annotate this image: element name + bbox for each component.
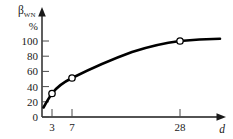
y-axis-title: βWN [18,4,36,19]
line-chart: 0 20 40 60 80 100 % βWN 3 7 28 d [0,0,233,139]
y-tick-label-100: 100 [22,35,39,47]
y-axis-arrow-icon [38,7,46,17]
y-tick-label-80: 80 [27,50,39,62]
data-point-marker-3 [49,90,55,96]
data-point-marker-7 [69,75,75,81]
y-tick-label-0: 0 [33,111,39,123]
x-tick-label-28: 28 [175,121,187,133]
data-curve [44,39,221,108]
data-point-marker-28 [177,38,183,44]
y-tick-label-20: 20 [27,96,39,108]
x-tick-label-3: 3 [49,121,55,133]
x-axis-arrow-icon [217,113,227,121]
x-tick-label-7: 7 [69,121,75,133]
y-axis-title-subscript: WN [24,11,36,19]
chart-container: 0 20 40 60 80 100 % βWN 3 7 28 d [0,0,233,139]
y-tick-label-60: 60 [27,65,39,77]
y-tick-label-40: 40 [27,81,39,93]
y-axis-unit-label: % [29,20,38,32]
x-axis-title: d [219,123,225,135]
